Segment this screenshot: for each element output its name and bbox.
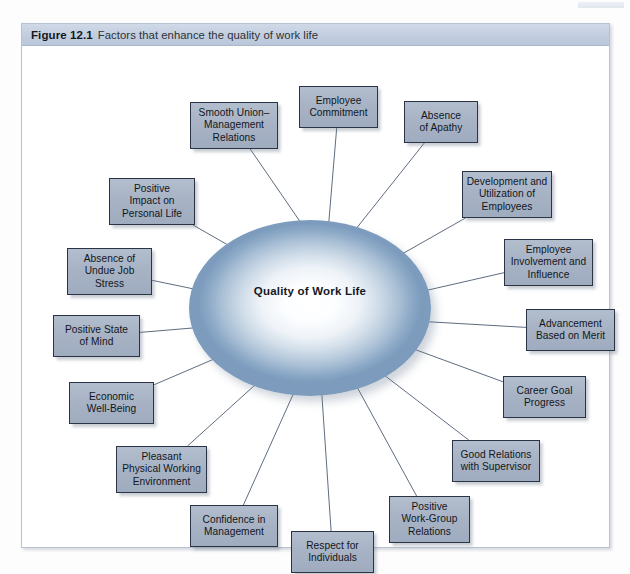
factor-box-positive-work-group-relations[interactable]: Positive Work-Group Relations (389, 496, 470, 543)
factor-box-good-relations-with-supervisor[interactable]: Good Relations with Supervisor (452, 440, 540, 482)
factor-box-smooth-union-management-relations[interactable]: Smooth Union– Management Relations (190, 102, 278, 149)
factor-box-confidence-in-management[interactable]: Confidence in Management (190, 505, 278, 547)
diagram-stage: Quality of Work Life Smooth Union– Manag… (22, 46, 609, 547)
central-node-label: Quality of Work Life (189, 284, 431, 298)
central-node-ellipse (189, 220, 431, 396)
figure-caption-text: Factors that enhance the quality of work… (98, 29, 318, 41)
factor-box-positive-impact-on-personal-life[interactable]: Positive Impact on Personal Life (109, 178, 195, 225)
factor-box-career-goal-progress[interactable]: Career Goal Progress (503, 376, 586, 418)
factor-box-employee-commitment[interactable]: Employee Commitment (299, 86, 378, 128)
page-edge-artifact (578, 2, 624, 8)
factor-box-respect-for-individuals[interactable]: Respect for Individuals (291, 531, 374, 573)
factor-box-absence-of-apathy[interactable]: Absence of Apathy (404, 101, 478, 143)
figure-frame: Figure 12.1 Factors that enhance the qua… (21, 23, 610, 548)
factor-box-pleasant-physical-working-environment[interactable]: Pleasant Physical Working Environment (116, 446, 207, 493)
factor-box-positive-state-of-mind[interactable]: Positive State of Mind (53, 315, 140, 357)
figure-number-label: Figure 12.1 (31, 29, 93, 41)
page-canvas: Figure 12.1 Factors that enhance the qua… (0, 0, 630, 574)
factor-box-absence-of-undue-job-stress[interactable]: Absence of Undue Job Stress (67, 248, 152, 295)
figure-caption-bar: Figure 12.1 Factors that enhance the qua… (22, 24, 609, 46)
factor-box-advancement-based-on-merit[interactable]: Advancement Based on Merit (526, 309, 615, 351)
factor-box-development-and-utilization-of-employees[interactable]: Development and Utilization of Employees (462, 171, 552, 218)
factor-box-employee-involvement-and-influence[interactable]: Employee Involvement and Influence (504, 239, 593, 286)
factor-box-economic-well-being[interactable]: Economic Well-Being (69, 382, 154, 424)
